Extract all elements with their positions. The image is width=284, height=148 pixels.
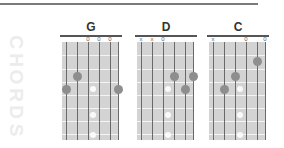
string-line — [141, 42, 142, 140]
side-title-letter: H — [8, 53, 24, 67]
string-line — [193, 42, 194, 140]
finger-dot — [253, 57, 262, 66]
finger-dot — [231, 72, 240, 81]
side-title-letter: C — [8, 35, 24, 49]
top-rule — [0, 3, 258, 5]
side-title-letter: R — [8, 88, 24, 102]
fret-inlay — [237, 112, 243, 118]
fretboard — [209, 42, 266, 140]
fretboard — [137, 42, 194, 140]
string-line — [163, 42, 164, 140]
fret-inlay — [237, 86, 243, 92]
finger-dot — [170, 72, 179, 81]
string-line — [265, 42, 266, 140]
fretboard — [62, 42, 119, 140]
finger-dot — [181, 85, 190, 94]
string-line — [110, 42, 111, 140]
string-line — [213, 42, 214, 140]
fret-inlay — [90, 86, 96, 92]
finger-dot — [114, 85, 123, 94]
side-title-letter: S — [8, 124, 24, 137]
chord-name: D — [135, 20, 197, 34]
string-line — [235, 42, 236, 140]
string-line — [174, 42, 175, 140]
finger-dot — [220, 85, 229, 94]
side-title: CHORDS — [3, 34, 29, 138]
finger-dot — [73, 72, 82, 81]
string-line — [77, 42, 78, 140]
fret-inlay — [165, 86, 171, 92]
string-line — [246, 42, 247, 140]
fret-inlay — [90, 112, 96, 118]
side-title-letter: O — [8, 70, 24, 85]
string-line — [152, 42, 153, 140]
side-title-letter: D — [8, 106, 24, 120]
fret-inlay — [165, 132, 171, 138]
string-line — [88, 42, 89, 140]
fret-inlay — [237, 132, 243, 138]
chord-name: G — [60, 20, 122, 34]
chord-name: C — [207, 20, 269, 34]
fret-inlay — [90, 132, 96, 138]
finger-dot — [62, 85, 71, 94]
finger-dot — [189, 72, 198, 81]
fret-inlay — [165, 112, 171, 118]
string-line — [99, 42, 100, 140]
